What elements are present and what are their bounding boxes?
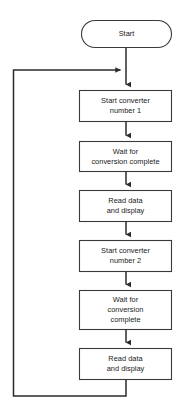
node-start-shape	[82, 21, 172, 48]
flowchart-canvas: Start Start converter number 1 Wait for …	[0, 0, 181, 407]
node-wait-conversion-2-shape	[80, 291, 172, 330]
node-start-converter-1-shape	[80, 91, 172, 122]
node-read-display-2-shape	[80, 349, 172, 380]
node-read-display-1-shape	[80, 191, 172, 222]
node-wait-conversion-1-shape	[80, 142, 172, 172]
node-start-converter-2-shape	[80, 241, 172, 272]
flowchart-graphics	[0, 0, 181, 407]
